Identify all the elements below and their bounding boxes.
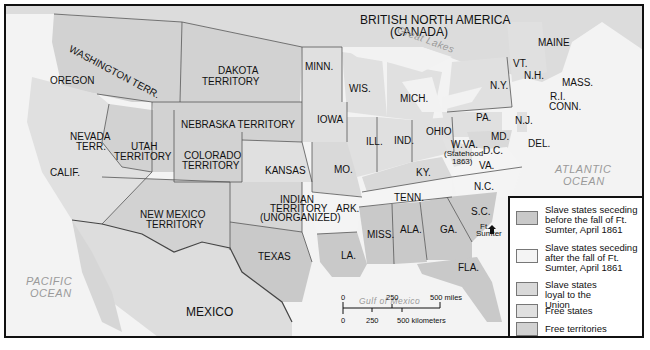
label-maine: MAINE	[538, 38, 570, 48]
label-ind: IND.	[394, 136, 414, 146]
label-utah-2: TERRITORY	[114, 152, 171, 162]
label-va: VA.	[479, 161, 494, 171]
label-miss: MISS.	[367, 230, 394, 240]
label-wva-3: 1863)	[452, 158, 472, 166]
label-sc: S.C.	[471, 207, 490, 217]
label-oregon: OREGON	[50, 76, 94, 86]
legend: Slave states seceding before the fall of…	[508, 196, 644, 338]
label-iowa: IOWA	[317, 115, 343, 125]
legend-label: Free territories	[545, 324, 641, 334]
label-pa: PA.	[476, 113, 491, 123]
label-nh: N.H.	[524, 71, 544, 81]
label-md: MD.	[491, 132, 509, 142]
label-ala: ALA.	[400, 225, 422, 235]
label-minn: MINN.	[305, 62, 333, 72]
label-wis: WIS.	[349, 84, 371, 94]
scale-miles-250: 250	[386, 293, 399, 302]
legend-item-secede-before: Slave states seceding before the fall of…	[516, 205, 641, 235]
label-nc: N.C.	[474, 182, 494, 192]
label-kansas: KANSAS	[265, 166, 306, 176]
legend-item-secede-after: Slave states seceding after the fall of …	[516, 243, 641, 273]
label-nj: N.J.	[515, 116, 533, 126]
label-dc: D.C.	[483, 146, 503, 156]
label-del: DEL.	[528, 139, 550, 149]
label-conn: CONN.	[549, 102, 581, 112]
label-colorado-2: TERRITORY	[182, 161, 239, 171]
label-la: LA.	[341, 251, 356, 261]
label-ohio: OHIO	[426, 127, 452, 137]
label-pacific-1: PACIFIC	[26, 276, 72, 287]
label-mich: MICH.	[400, 94, 428, 104]
label-dakota-1: DAKOTA	[218, 66, 258, 76]
scale-km-500: 500 kilometers	[397, 316, 446, 325]
scale-miles-500: 500 miles	[430, 293, 462, 302]
legend-swatch	[516, 322, 538, 336]
label-atlantic-1: ATLANTIC	[555, 164, 611, 175]
label-ill: ILL.	[366, 137, 383, 147]
legend-label: Slave states seceding before the fall of…	[545, 205, 641, 235]
label-tenn: TENN.	[394, 193, 424, 203]
legend-swatch	[516, 304, 538, 318]
legend-item-free-states: Free states	[516, 304, 641, 318]
label-dakota-2: TERRITORY	[202, 77, 259, 87]
label-mass: MASS.	[562, 78, 593, 88]
label-mexico: MEXICO	[186, 306, 233, 318]
legend-item-free-territories: Free territories	[516, 322, 641, 336]
label-ky: KY.	[416, 168, 431, 178]
legend-swatch	[516, 249, 538, 263]
legend-label: Free states	[545, 306, 641, 316]
label-vt: VT.	[513, 59, 527, 69]
scale-km-0: 0	[341, 316, 345, 325]
label-mo: MO.	[334, 165, 353, 175]
label-ny: N.Y.	[490, 81, 508, 91]
label-pacific-2: OCEAN	[30, 288, 72, 299]
label-ft-sumter-2: Sumter	[476, 230, 502, 238]
legend-swatch	[516, 211, 538, 225]
scale-bar: 0 250 500 miles 0 250 500 kilometers	[342, 290, 482, 330]
label-atlantic-2: OCEAN	[563, 176, 605, 187]
label-nebraska: NEBRASKA TERRITORY	[181, 120, 295, 130]
label-texas: TEXAS	[258, 252, 291, 262]
label-indian-3: (UNORGANIZED)	[260, 213, 341, 223]
legend-swatch	[516, 282, 538, 296]
label-nevada-2: TERR.	[76, 142, 106, 152]
label-calif: CALIF.	[50, 168, 80, 178]
scale-miles-0: 0	[341, 293, 345, 302]
label-new-mexico-2: TERRITORY	[146, 220, 203, 230]
label-ga: GA.	[440, 225, 457, 235]
legend-label: Slave states seceding after the fall of …	[545, 243, 641, 273]
label-ark: ARK.	[336, 204, 359, 214]
scale-km-250: 250	[366, 316, 379, 325]
label-fla: FLA.	[458, 263, 479, 273]
